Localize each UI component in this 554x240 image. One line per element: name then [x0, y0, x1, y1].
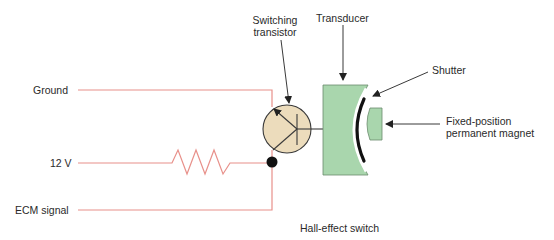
shutter-label: Shutter	[432, 64, 466, 76]
junction-dot	[267, 157, 278, 168]
12v-wire	[78, 150, 272, 174]
ground-label: Ground	[33, 84, 68, 96]
switching-transistor	[263, 105, 323, 153]
ground-wire	[78, 90, 272, 107]
switching-transistor-label-line1: Switching	[245, 14, 305, 26]
12v-label: 12 V	[50, 157, 72, 169]
permanent-magnet	[367, 108, 382, 140]
ecm-signal-label: ECM signal	[15, 204, 69, 216]
ecm-signal-wire	[78, 150, 272, 210]
diagram-caption: Hall-effect switch	[300, 222, 379, 234]
transistor-pointer	[281, 40, 289, 103]
magnet-label-line2: permanent magnet	[446, 127, 534, 139]
magnet-label-line1: Fixed-position	[446, 115, 534, 127]
switching-transistor-label-line2: transistor	[245, 26, 305, 38]
transducer-label: Transducer	[316, 12, 369, 24]
shutter-pointer	[373, 72, 428, 96]
switching-transistor-label: Switching transistor	[245, 14, 305, 38]
magnet-label: Fixed-position permanent magnet	[446, 115, 534, 139]
wires	[78, 90, 272, 210]
